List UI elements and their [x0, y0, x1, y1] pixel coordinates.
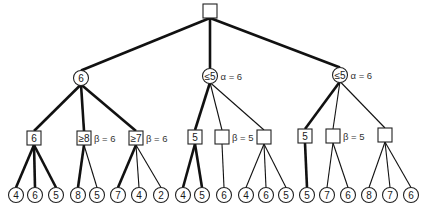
edge-n1-m3: [81, 85, 136, 132]
edge-leaf-16: [333, 143, 348, 188]
edge-n1-m2: [81, 85, 84, 132]
edge-n2-m5: [210, 83, 222, 131]
max-node-m9: [378, 128, 392, 142]
root-max-node: [203, 4, 217, 18]
max-node-m4: 5: [188, 130, 202, 144]
edge-n3-m7: [305, 82, 340, 130]
leaf-node: 5: [300, 188, 315, 203]
edge-leaf-8: [183, 144, 195, 188]
leaf-node: 7: [111, 188, 126, 203]
min-node-n3: ≤5: [333, 68, 348, 83]
node-value: ≤5: [204, 71, 215, 82]
edge-leaf-10: [222, 144, 224, 188]
square-node-shape: [326, 129, 340, 143]
leaf-node: 7: [383, 188, 398, 203]
node-value: 6: [408, 190, 414, 201]
square-node-shape: [378, 128, 392, 142]
edge-n1-m1: [34, 85, 81, 132]
node-value: 7: [115, 190, 121, 201]
pruning-annotation: β = 5: [232, 132, 254, 143]
pruning-annotation: β = 6: [146, 133, 168, 144]
leaf-node: 5: [49, 188, 64, 203]
max-node-m1: 6: [27, 131, 41, 145]
pruning-annotation: α = 6: [221, 71, 243, 82]
node-value: 5: [302, 131, 308, 142]
leaf-node: 6: [341, 188, 356, 203]
node-value: 7: [324, 190, 330, 201]
min-node-n1: 6: [74, 71, 89, 86]
pruning-annotation: β = 6: [94, 133, 116, 144]
max-node-m3: ≥7: [129, 131, 143, 145]
max-node-m2: ≥8: [77, 131, 91, 145]
leaf-node: 8: [71, 188, 86, 203]
edge-leaf-5: [118, 145, 136, 188]
node-value: 4: [180, 190, 186, 201]
node-value: 4: [136, 190, 142, 201]
leaf-node: 6: [28, 188, 43, 203]
node-value: 6: [221, 190, 227, 201]
leaf-node: 6: [259, 188, 274, 203]
edge-leaf-7: [136, 145, 161, 188]
square-node-shape: [257, 130, 271, 144]
node-value: 4: [243, 190, 249, 201]
node-value: 4: [13, 190, 19, 201]
leaf-node: 6: [404, 188, 419, 203]
leaf-node: 2: [154, 188, 169, 203]
max-node-m8: [326, 129, 340, 143]
node-value: 5: [304, 190, 310, 201]
node-value: 5: [283, 190, 289, 201]
edge-leaf-11: [246, 144, 264, 188]
node-value: 5: [199, 190, 205, 201]
pruning-annotation: β = 5: [343, 131, 365, 142]
node-value: 6: [263, 190, 269, 201]
node-value: 6: [32, 190, 38, 201]
tree-nodes: 6≤5α = 6≤5α = 66≥8β = 6≥7β = 65β = 55β =…: [9, 4, 419, 203]
edge-leaf-17: [369, 142, 385, 188]
game-tree-diagram: 6≤5α = 6≤5α = 66≥8β = 6≥7β = 65β = 55β =…: [0, 0, 425, 212]
edge-n2-m4: [195, 83, 210, 131]
leaf-node: 4: [239, 188, 254, 203]
leaf-node: 5: [90, 188, 105, 203]
edge-root-n3: [210, 18, 340, 68]
leaf-node: 6: [217, 188, 232, 203]
edge-leaf-14: [305, 143, 307, 188]
node-value: 2: [158, 190, 164, 201]
node-value: 8: [75, 190, 81, 201]
node-value: 6: [31, 133, 37, 144]
max-node-m5: [215, 130, 229, 144]
leaf-node: 8: [362, 188, 377, 203]
edge-leaf-1: [34, 145, 35, 188]
leaf-node: 4: [9, 188, 24, 203]
edge-n3-m9: [340, 82, 385, 129]
edge-leaf-12: [264, 144, 266, 188]
node-value: 5: [53, 190, 59, 201]
edge-leaf-6: [136, 145, 139, 188]
leaf-node: 5: [195, 188, 210, 203]
edge-leaf-0: [16, 145, 34, 188]
node-value: 5: [94, 190, 100, 201]
edge-leaf-2: [34, 145, 56, 188]
node-value: ≥7: [130, 133, 141, 144]
edge-n2-m6: [210, 83, 264, 131]
edge-root-n1: [81, 18, 210, 71]
node-value: 6: [78, 73, 84, 84]
leaf-node: 4: [132, 188, 147, 203]
node-value: ≥8: [78, 133, 89, 144]
edge-leaf-13: [264, 144, 286, 188]
node-value: 5: [192, 132, 198, 143]
node-value: 8: [366, 190, 372, 201]
square-node-shape: [203, 4, 217, 18]
leaf-node: 5: [279, 188, 294, 203]
min-node-n2: ≤5: [203, 69, 218, 84]
node-value: ≤5: [334, 70, 345, 81]
edge-leaf-4: [84, 145, 97, 188]
node-value: 6: [345, 190, 351, 201]
node-value: 7: [387, 190, 393, 201]
max-node-m7: 5: [298, 129, 312, 143]
leaf-node: 7: [320, 188, 335, 203]
square-node-shape: [215, 130, 229, 144]
leaf-node: 4: [176, 188, 191, 203]
pruning-annotation: α = 6: [351, 70, 373, 81]
tree-edges: [16, 18, 411, 188]
edge-leaf-15: [327, 143, 333, 188]
